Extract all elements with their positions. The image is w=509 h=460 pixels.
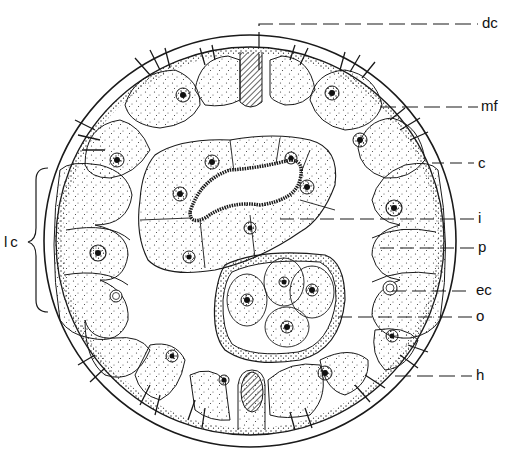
- lateral-cord-right: [372, 163, 446, 338]
- label-ec: ec: [476, 282, 492, 297]
- label-p: p: [478, 239, 486, 254]
- label-h: h: [476, 367, 484, 382]
- label-mf: mf: [481, 98, 498, 113]
- label-c: c: [478, 155, 486, 170]
- ventral-cord: [238, 370, 265, 430]
- lateral-cord-left: [54, 163, 132, 339]
- label-dc: dc: [482, 15, 498, 30]
- label-i: i: [478, 210, 481, 225]
- label-lc: lc: [4, 234, 21, 249]
- label-o: o: [476, 308, 484, 323]
- ovary: [214, 253, 345, 363]
- nematode-cross-section-diagram: [0, 0, 509, 460]
